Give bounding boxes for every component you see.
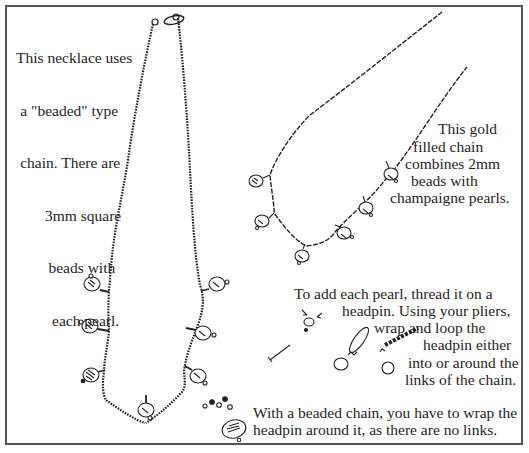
caption-line: This gold [438, 120, 497, 138]
caption-line: headpin around it, as there are no links… [253, 421, 497, 439]
caption-line: With a beaded chain, you have to wrap th… [253, 404, 517, 422]
pearl-icon [335, 225, 354, 239]
caption-line: To add each pearl, thread it on a [294, 285, 493, 303]
wrapped-loop-icon [334, 325, 372, 370]
pearl-icon [201, 277, 229, 291]
caption-line: chain. There are [16, 154, 132, 172]
caption-line: 3mm square [16, 207, 132, 225]
headpin-icon [270, 345, 290, 360]
pearl-icon [81, 368, 105, 383]
caption-line: beads with [16, 259, 132, 277]
pearl-icon [138, 395, 154, 420]
pearl-icon [295, 244, 309, 265]
pearl-icon [249, 175, 270, 187]
beaded-wrap-icon [203, 397, 248, 442]
caption-line: This necklace uses [16, 49, 132, 67]
caption-line: links of the chain. [405, 371, 516, 389]
caption-line: each pearl. [16, 312, 132, 330]
pearl-icon [186, 326, 216, 340]
caption-line: headpin either [423, 336, 511, 354]
pearl-icon [255, 213, 274, 230]
caption-line: wrap and loop the [374, 319, 485, 337]
gold-chain-pearls [249, 161, 398, 265]
pearl-icon [359, 196, 373, 217]
caption-line: into or around the [408, 354, 519, 372]
caption-line: champaigne pearls. [390, 189, 510, 207]
chain-right-strand [146, 18, 203, 423]
pearl-on-headpin-icon [302, 310, 322, 332]
caption-line: headpin. Using your pliers, [342, 302, 510, 320]
pearl-icon [185, 366, 207, 385]
beaded-chain-note: With a beaded chain, you have to wrap th… [0, 0, 8, 53]
caption-line: a "beaded" type [16, 102, 132, 120]
caption-line: combines 2mm [405, 155, 500, 173]
beaded-necklace-caption: This necklace uses a "beaded" type chain… [16, 14, 132, 347]
caption-line: beads with [411, 172, 478, 190]
caption-line: filled chain [413, 138, 483, 156]
